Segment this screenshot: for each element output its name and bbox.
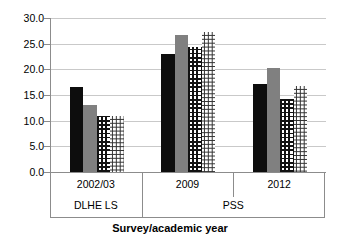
y-axis-tick-label: 0.0 (29, 167, 44, 177)
bar-group (143, 18, 235, 172)
category-group-label: PSS (142, 199, 325, 211)
category-label: 2012 (233, 178, 325, 190)
bar (253, 84, 267, 172)
y-axis-tick-label: 5.0 (29, 141, 44, 151)
bar-chart: 0.05.010.015.020.025.030.0 2002/03200920… (0, 0, 340, 245)
y-axis-tick-label: 10.0 (24, 116, 44, 126)
category-group-bracket (142, 217, 325, 218)
plot-area (50, 18, 325, 172)
y-axis: 0.05.010.015.020.025.030.0 (0, 18, 50, 172)
bar-group (234, 18, 326, 172)
bar (161, 54, 175, 172)
bar (280, 99, 294, 172)
bar (202, 32, 216, 172)
category-axis: 2002/0320092012 (50, 172, 325, 196)
category-group-separator (50, 196, 51, 218)
x-axis-title: Survey/academic year (0, 222, 340, 235)
category-label: 2009 (142, 178, 234, 190)
category-group-separator (324, 196, 325, 218)
y-axis-tick-label: 15.0 (24, 90, 44, 100)
category-group-label: DLHE LS (50, 199, 142, 211)
bar-group (51, 18, 143, 172)
bar (97, 116, 111, 172)
bar (70, 87, 84, 172)
category-separator (324, 173, 325, 197)
category-separator (233, 173, 234, 197)
y-axis-tick-label: 20.0 (24, 64, 44, 74)
bar (294, 86, 308, 172)
category-label: 2002/03 (50, 178, 142, 190)
bar (267, 68, 281, 172)
category-group-axis: DLHE LSPSS (50, 196, 325, 218)
category-separator (142, 173, 143, 197)
category-group-separator (142, 196, 143, 218)
bar (110, 116, 124, 172)
bar (175, 35, 189, 172)
category-group-bracket (50, 217, 142, 218)
y-axis-tick-label: 30.0 (24, 13, 44, 23)
bar (188, 47, 202, 172)
category-separator (50, 173, 51, 197)
bar (83, 105, 97, 172)
y-axis-tick-label: 25.0 (24, 39, 44, 49)
